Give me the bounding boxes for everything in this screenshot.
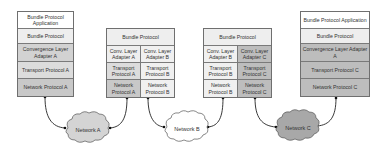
layer-cla-b: Conv. Layer Adapter B	[141, 46, 174, 63]
destination-node-stack: Bundle Protocol Application Bundle Proto…	[300, 11, 370, 97]
layer-transport-b: Transport Protocol B	[204, 63, 238, 80]
forwarder-2-stack: Bundle Protocol Conv. Layer Adapter B Co…	[203, 28, 272, 98]
forwarder-1-stack: Bundle Protocol Conv. Layer Adapter A Co…	[106, 28, 175, 98]
network-a-label: Network A	[75, 127, 100, 133]
layer-cla: Convergence Layer Adapter A	[301, 44, 369, 62]
network-b-label: Network B	[174, 126, 199, 132]
network-c-label: Network C	[285, 125, 311, 131]
layer-bundle-protocol: Bundle Protocol	[18, 29, 73, 44]
layer-network-b: Network Protocol B	[141, 80, 174, 97]
connector-dot	[335, 97, 338, 100]
layer-bp-application: Bundle Protocol Application	[18, 12, 73, 29]
edge-source-network-a	[45, 97, 65, 128]
layer-network: Network Protocol C	[301, 79, 369, 96]
layer-network-c: Network Protocol C	[238, 80, 271, 97]
layer-bundle-protocol: Bundle Protocol	[204, 29, 271, 46]
edge-network-a-forwarder1	[110, 98, 127, 128]
edge-forwarder2-network-c	[255, 98, 276, 127]
layer-cla-b: Conv. Layer Adapter B	[204, 46, 238, 63]
edge-network-c-destination	[317, 98, 336, 126]
source-node-stack: Bundle Protocol Application Bundle Proto…	[17, 11, 74, 97]
layer-network-b: Network Protocol B	[204, 80, 238, 97]
layer-transport-a: Transport Protocol A	[107, 63, 141, 80]
edge-forwarder1-network-b	[148, 98, 164, 127]
layer-transport-c: Transport Protocol C	[238, 63, 271, 80]
layer-transport: Transport Protocol A	[18, 62, 73, 79]
layer-bp-application: Bundle Protocol Application	[301, 12, 369, 29]
layer-transport: Transport Protocol C	[301, 62, 369, 79]
edge-network-b-forwarder2	[208, 98, 223, 127]
layer-network-a: Network Protocol A	[107, 80, 141, 97]
connector-dot	[109, 127, 112, 130]
layer-cla-c: Conv. Layer Adapter C	[238, 46, 271, 63]
layer-cla-a: Conv. Layer Adapter A	[107, 46, 141, 63]
layer-bundle-protocol: Bundle Protocol	[301, 29, 369, 44]
layer-bundle-protocol: Bundle Protocol	[107, 29, 174, 46]
layer-network: Network Protocol A	[18, 79, 73, 96]
layer-transport-b: Transport Protocol B	[141, 63, 174, 80]
layer-cla: Convergence Layer Adapter A	[18, 44, 73, 62]
connector-dot	[64, 127, 67, 130]
connector-dot	[163, 126, 166, 129]
